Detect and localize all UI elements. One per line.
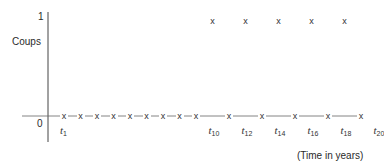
time-label-t16: t16 [308, 125, 319, 139]
data-point-marker: x [225, 112, 233, 121]
data-point-marker: x [324, 112, 332, 121]
y-axis-label: Coups [12, 37, 41, 47]
data-point-marker: x [60, 112, 68, 121]
data-point-marker: x [192, 112, 200, 121]
x-axis-label: (Time in years) [297, 151, 363, 161]
ytick-1: 1 [38, 12, 44, 22]
time-label-t20: t20 [374, 125, 384, 139]
data-point-marker: x [110, 112, 118, 121]
ytick-0: 0 [37, 119, 43, 129]
data-point-marker: x [77, 112, 85, 121]
data-point-marker: x [126, 112, 134, 121]
data-point-marker: x [242, 17, 250, 26]
data-point-marker: x [93, 112, 101, 121]
time-label-t14: t14 [275, 125, 286, 139]
data-point-marker: x [275, 17, 283, 26]
data-point-marker: x [258, 112, 266, 121]
time-label-t12: t12 [242, 125, 253, 139]
time-label-t18: t18 [341, 125, 352, 139]
data-point-marker: x [357, 112, 365, 121]
data-point-marker: x [176, 112, 184, 121]
data-point-marker: x [209, 17, 217, 26]
data-point-marker: x [308, 17, 316, 26]
data-point-marker: x [143, 112, 151, 121]
time-label-t10: t10 [209, 125, 220, 139]
data-point-marker: x [291, 112, 299, 121]
data-point-marker: x [159, 112, 167, 121]
time-label-t1: t1 [60, 125, 67, 139]
data-point-marker: x [341, 17, 349, 26]
